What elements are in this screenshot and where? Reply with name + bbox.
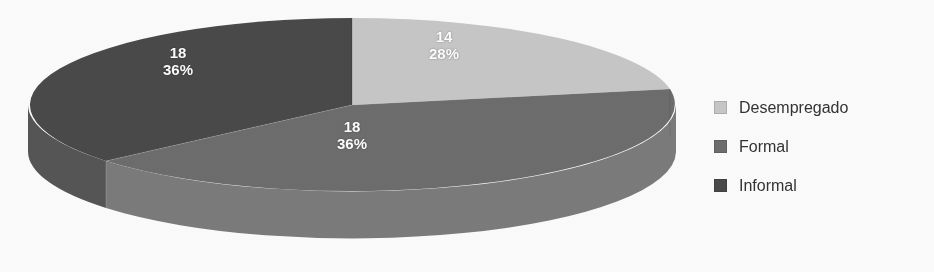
slice-label-informal: 18 36% [138, 44, 218, 79]
pie-chart-plot-area: 14 28% 18 36% 18 36% [0, 0, 700, 272]
legend-label-informal: Informal [739, 177, 797, 195]
slice-value-desempregado: 14 [404, 28, 484, 45]
legend-item-formal[interactable]: Formal [714, 127, 929, 166]
slice-percent-formal: 36% [312, 135, 392, 152]
legend-swatch-icon [714, 179, 727, 192]
slice-percent-informal: 36% [138, 61, 218, 78]
legend-item-desempregado[interactable]: Desempregado [714, 88, 929, 127]
legend-item-informal[interactable]: Informal [714, 166, 929, 205]
chart-legend: Desempregado Formal Informal [714, 88, 929, 205]
legend-swatch-icon [714, 140, 727, 153]
legend-swatch-icon [714, 101, 727, 114]
legend-label-formal: Formal [739, 138, 789, 156]
slice-percent-desempregado: 28% [404, 45, 484, 62]
slice-label-formal: 18 36% [312, 118, 392, 153]
legend-label-desempregado: Desempregado [739, 99, 848, 117]
slice-value-informal: 18 [138, 44, 218, 61]
pie-chart-figure: 14 28% 18 36% 18 36% Desempregado Formal… [0, 0, 934, 272]
slice-label-desempregado: 14 28% [404, 28, 484, 63]
slice-value-formal: 18 [312, 118, 392, 135]
